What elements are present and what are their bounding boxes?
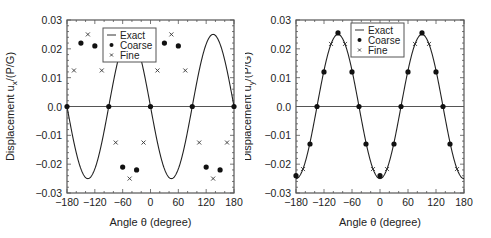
x-tick-label: 120 bbox=[197, 196, 215, 208]
x-tick-label: −120 bbox=[83, 196, 107, 208]
y-tick-label: −0.01 bbox=[35, 129, 62, 141]
x-axis-label: Angle θ (degree) bbox=[339, 216, 421, 228]
coarse-marker bbox=[64, 104, 69, 109]
x-tick-label: 60 bbox=[172, 196, 184, 208]
fine-marker bbox=[100, 68, 104, 72]
x-tick-label: 0 bbox=[377, 196, 383, 208]
legend-dot-icon bbox=[358, 38, 362, 42]
fine-marker bbox=[128, 177, 132, 181]
fine-marker bbox=[72, 68, 76, 72]
y-axis-label: Displacement ux/(P/G) bbox=[4, 52, 19, 161]
x-tick-label: −60 bbox=[114, 196, 132, 208]
x-tick-label: 0 bbox=[148, 196, 154, 208]
fine-marker bbox=[183, 68, 187, 72]
coarse-marker bbox=[356, 104, 361, 109]
coarse-marker bbox=[307, 141, 312, 146]
chart-uy: −180−120−60060120180Angle θ (degree)0.03… bbox=[245, 0, 491, 238]
fine-marker bbox=[197, 141, 201, 145]
coarse-marker bbox=[391, 141, 396, 146]
y-tick-label: 0.0 bbox=[47, 101, 62, 113]
y-tick-label: −0.02 bbox=[264, 158, 291, 170]
y-tick-label: −0.01 bbox=[264, 129, 291, 141]
y-label-main: Displacement u bbox=[245, 85, 253, 161]
coarse-marker bbox=[231, 104, 236, 109]
coarse-marker bbox=[349, 69, 354, 74]
x-tick-label: 120 bbox=[427, 196, 445, 208]
legend-label: Fine bbox=[368, 45, 388, 56]
y-tick-label: 0.03 bbox=[42, 14, 63, 26]
coarse-marker bbox=[134, 167, 139, 172]
coarse-marker bbox=[440, 104, 445, 109]
fine-marker bbox=[211, 177, 215, 181]
coarse-marker bbox=[433, 69, 438, 74]
coarse-marker bbox=[78, 40, 83, 45]
coarse-marker bbox=[405, 69, 410, 74]
coarse-marker bbox=[176, 43, 181, 48]
coarse-marker bbox=[106, 104, 111, 109]
legend: ExactCoarseFine bbox=[103, 28, 156, 62]
y-tick-label: 0.01 bbox=[42, 72, 63, 84]
legend-label: Fine bbox=[120, 50, 140, 61]
coarse-marker bbox=[293, 173, 298, 178]
fine-marker bbox=[169, 32, 173, 36]
y-tick-label: 0.0 bbox=[276, 101, 291, 113]
x-tick-label: 180 bbox=[225, 196, 243, 208]
coarse-marker bbox=[148, 104, 153, 109]
coarse-marker bbox=[335, 30, 340, 35]
y-tick-label: 0.01 bbox=[271, 72, 292, 84]
x-tick-label: −60 bbox=[343, 196, 361, 208]
chart-ux: −180−120−60060120180Angle θ (degree)0.03… bbox=[0, 0, 245, 238]
x-axis-label: Angle θ (degree) bbox=[110, 216, 192, 228]
coarse-marker bbox=[398, 104, 403, 109]
y-label-tail: /(P/G) bbox=[245, 52, 253, 81]
coarse-marker bbox=[217, 167, 222, 172]
legend-dot-icon bbox=[110, 43, 114, 47]
y-tick-label: −0.03 bbox=[35, 187, 62, 199]
x-tick-label: −120 bbox=[312, 196, 336, 208]
y-label-tail: /(P/G) bbox=[4, 52, 16, 81]
fine-marker bbox=[155, 68, 159, 72]
coarse-marker bbox=[447, 141, 452, 146]
y-label-main: Displacement u bbox=[4, 85, 16, 161]
coarse-marker bbox=[321, 69, 326, 74]
coarse-marker bbox=[419, 30, 424, 35]
y-tick-label: 0.02 bbox=[271, 43, 292, 55]
x-tick-label: 60 bbox=[402, 196, 414, 208]
coarse-marker bbox=[363, 141, 368, 146]
fine-marker bbox=[142, 141, 146, 145]
x-tick-label: 180 bbox=[455, 196, 473, 208]
coarse-marker bbox=[162, 40, 167, 45]
y-axis-label: Displacement uy/(P/G) bbox=[245, 52, 256, 161]
coarse-marker bbox=[314, 104, 319, 109]
legend: ExactCoarseFine bbox=[351, 23, 404, 57]
coarse-marker bbox=[377, 173, 382, 178]
fine-marker bbox=[114, 141, 118, 145]
y-tick-label: −0.03 bbox=[264, 187, 291, 199]
fine-marker bbox=[86, 32, 90, 36]
coarse-marker bbox=[92, 43, 97, 48]
coarse-marker bbox=[190, 104, 195, 109]
coarse-marker bbox=[120, 164, 125, 169]
y-tick-label: 0.02 bbox=[42, 43, 63, 55]
y-tick-label: 0.03 bbox=[271, 14, 292, 26]
coarse-marker bbox=[204, 164, 209, 169]
y-tick-label: −0.02 bbox=[35, 158, 62, 170]
fine-marker bbox=[225, 141, 229, 145]
